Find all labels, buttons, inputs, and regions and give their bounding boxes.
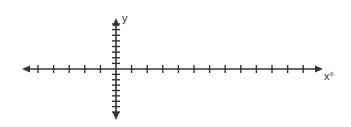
arrow-up-icon — [113, 18, 120, 26]
arrow-down-icon — [113, 112, 120, 120]
y-axis-label: y — [122, 12, 128, 24]
arrow-right-icon — [315, 66, 323, 73]
x-axis — [22, 65, 323, 73]
x-axis-label: x° — [324, 70, 334, 82]
coordinate-plane: y x° — [0, 0, 351, 127]
arrow-left-icon — [22, 66, 30, 73]
